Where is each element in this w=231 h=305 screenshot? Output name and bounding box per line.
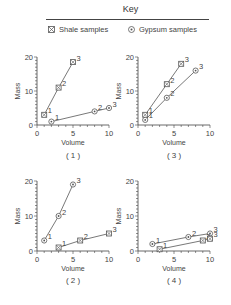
panel-3-gypsum-point-dot bbox=[58, 215, 60, 217]
panel-3-y-tick-label: 0 bbox=[29, 247, 33, 256]
panel-2-gypsum-point-dot bbox=[195, 70, 197, 72]
panel-2-gypsum-point-dot bbox=[166, 97, 168, 99]
panel-2-x-axis-label: Volume bbox=[162, 139, 185, 146]
panel-1-x-tick-label: 10 bbox=[105, 129, 113, 138]
panel-caption-3: ( 3 ) bbox=[154, 151, 194, 160]
panel-3-gypsum-point-label: 1 bbox=[48, 232, 52, 241]
panel-3-x-tick-label: 5 bbox=[71, 255, 75, 264]
panel-4-x-axis-label: Volume bbox=[162, 265, 185, 272]
panel-4-gypsum-point-label: 2 bbox=[192, 229, 196, 238]
panel-1-y-tick-label: 20 bbox=[25, 53, 33, 62]
panel-1-shale-point-label: 3 bbox=[77, 54, 81, 63]
panel-1-gypsum-point-label: 1 bbox=[55, 113, 59, 122]
panel-3-shale-point-label: 1 bbox=[62, 239, 66, 248]
panel-2-shale-point-label: 3 bbox=[185, 55, 189, 64]
panel-3-gypsum-point-label: 2 bbox=[62, 208, 66, 217]
panel-4-gypsum-point-dot bbox=[152, 243, 154, 245]
panel-1-shale-point-label: 1 bbox=[48, 106, 52, 115]
panel-2-x-tick-label: 10 bbox=[206, 129, 214, 138]
panel-4-shale-point-label: 3 bbox=[214, 230, 218, 239]
panel-1-x-tick-label: 0 bbox=[35, 129, 39, 138]
panel-3-x-tick-label: 10 bbox=[105, 255, 113, 264]
panel-1-x-tick-label: 5 bbox=[71, 129, 75, 138]
panel-2-y-tick-label: 10 bbox=[126, 87, 134, 96]
panel-3-shale-point-label: 2 bbox=[84, 232, 88, 241]
panel-3-gypsum-point-dot bbox=[72, 184, 74, 186]
panel-1-y-axis-label: Mass bbox=[14, 82, 21, 99]
panel-2-y-axis-label: Mass bbox=[115, 82, 122, 99]
panel-caption-4: ( 4 ) bbox=[154, 276, 194, 285]
panel-1-y-tick-label: 10 bbox=[25, 87, 33, 96]
panel-3-gypsum-point-dot bbox=[43, 240, 45, 242]
panel-caption-1: ( 1 ) bbox=[53, 151, 93, 160]
panel-4-x-tick-label: 5 bbox=[172, 255, 176, 264]
panel-2-gypsum-point-label: 3 bbox=[199, 62, 203, 71]
panel-2-gypsum-point-label: 2 bbox=[170, 89, 174, 98]
panel-1-gypsum-point-label: 3 bbox=[113, 100, 117, 109]
panel-3-y-tick-label: 10 bbox=[25, 212, 33, 221]
panel-1-x-axis-label: Volume bbox=[61, 139, 84, 146]
panel-caption-2: ( 2 ) bbox=[53, 276, 93, 285]
panel-2-x-tick-label: 5 bbox=[172, 129, 176, 138]
panel-1-gypsum-point-dot bbox=[51, 121, 53, 123]
panel-4-y-tick-label: 0 bbox=[130, 247, 134, 256]
panel-1-gypsum-point-dot bbox=[94, 111, 96, 113]
chart-panels: 051001020VolumeMass123123051001020Volume… bbox=[0, 0, 231, 305]
panel-1-shale-point-label: 2 bbox=[62, 79, 66, 88]
panel-2-shale-point-label: 2 bbox=[170, 76, 174, 85]
panel-4-y-tick-label: 20 bbox=[126, 177, 134, 186]
panel-4-shale-point-label: 1 bbox=[163, 241, 167, 250]
panel-4-x-tick-label: 0 bbox=[136, 255, 140, 264]
panel-4-gypsum-point-label: 1 bbox=[156, 236, 160, 245]
panel-3-gypsum-point-label: 3 bbox=[77, 176, 81, 185]
panel-4-x-tick-label: 10 bbox=[206, 255, 214, 264]
panel-2-y-tick-label: 20 bbox=[126, 53, 134, 62]
panel-3-x-tick-label: 0 bbox=[35, 255, 39, 264]
panel-4-y-tick-label: 10 bbox=[126, 212, 134, 221]
panel-4-y-axis-label: Mass bbox=[115, 207, 122, 224]
panel-4-gypsum-point-dot bbox=[188, 236, 190, 238]
panel-2-y-tick-label: 0 bbox=[130, 121, 134, 130]
panel-2-x-tick-label: 0 bbox=[136, 129, 140, 138]
panel-3-x-axis-label: Volume bbox=[61, 265, 84, 272]
panel-1-gypsum-point-label: 2 bbox=[98, 103, 102, 112]
panel-2-gypsum-point-dot bbox=[144, 119, 146, 121]
panel-3-y-axis-label: Mass bbox=[14, 207, 21, 224]
panel-1-gypsum-point-dot bbox=[108, 107, 110, 109]
panel-2-gypsum-point-label: 1 bbox=[149, 111, 153, 120]
panel-3-shale-point-label: 3 bbox=[113, 225, 117, 234]
panel-3-y-tick-label: 20 bbox=[25, 177, 33, 186]
panel-1-y-tick-label: 0 bbox=[29, 121, 33, 130]
